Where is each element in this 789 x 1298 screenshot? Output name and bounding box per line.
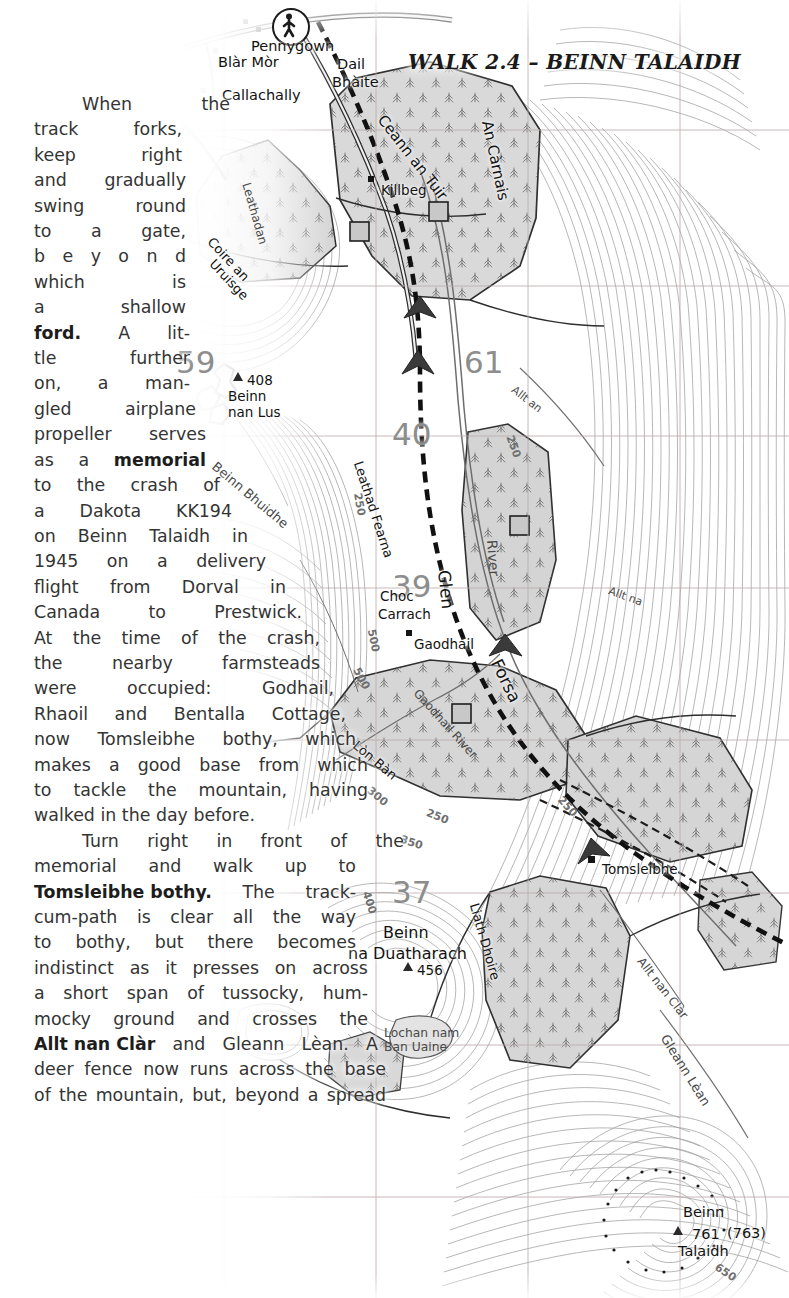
page-header-walk-title: WALK 2.4 – BEINN TALAIDH [408,50,741,74]
grid-number-40: 40 [392,416,431,452]
text-line: ashallow [34,295,186,320]
text-line: aDakotaKK194 [34,499,232,524]
spot-height-icon-761 [673,1226,683,1235]
map-label-river: River [484,539,502,576]
spot-height-icon-456 [403,962,413,971]
text-line: swinground [34,194,186,219]
text-line: walked in the day before. [34,803,368,828]
text-line: beyond [34,244,186,269]
text-line: propellerserves [34,422,206,447]
text-line: onBeinnTalaidhin [34,524,248,549]
text-line: CanadatoPrestwick. [34,600,302,625]
page-canvas: 59 61 40 39 37 Pennygown Blàr Mòr Callac… [0,0,789,1298]
map-label-glen: Glen [434,569,458,610]
text-line: mockygroundandcrossesthe [34,1007,368,1032]
text-line: Allt nan ClàrandGleannLèan.A [34,1032,378,1057]
text-line: on,aman- [34,371,190,396]
text-line: thenearbyfarmsteads [34,651,320,676]
text-line: deerfencenowrunsacrossthebase [34,1057,386,1082]
text-line: memorialandwalkupto [34,854,356,879]
text-line: ford.Alit- [34,321,190,346]
paragraph-2: Turnrightinfrontofthe memorialandwalkupt… [34,829,374,1108]
text-line: keepright [34,143,182,168]
paragraph-1: Whenthe trackforks, keepright andgradual… [34,92,374,829]
grid-number-37: 37 [392,874,431,910]
map-label-gaodhail: Gaodhail [414,636,474,652]
text-line: totacklethemountain,having [34,778,368,803]
map-label-tomsleibhe: Tomsleibhe [602,861,678,877]
text-line: RhaoilandBentallaCottage, [34,702,346,727]
walker-glyph [274,10,304,40]
text-line: Turnrightinfrontofthe [34,829,404,854]
map-label-beinn: Beinn [383,923,429,942]
header-text: WALK 2.4 – BEINN TALAIDH [408,50,741,74]
map-label-killbeg: Killbeg [381,182,427,198]
text-line: tothecrashof [34,473,220,498]
text-line: Atthetimeofthecrash, [34,626,320,651]
map-label-beinn-talaidh-line1: Beinn [683,1204,724,1220]
text-line: toagate, [34,219,186,244]
text-line: trackforks, [34,117,182,142]
grid-number-61: 61 [464,344,503,380]
map-label-lochan-nam: Lochan nam [384,1026,459,1040]
text-line: nowTomsleibhebothy,which [34,727,356,752]
text-line: asamemorial [34,448,206,473]
text-line: flightfromDorvalin [34,575,286,600]
text-line: andgradually [34,168,186,193]
text-line: gledairplane [34,397,196,422]
text-line: ofthemountain,but,beyondaspread [34,1083,386,1108]
map-label-pennygown: Pennygown [251,38,334,54]
text-line: makesagoodbasefromwhich [34,753,368,778]
text-line: tlefurther [34,346,190,371]
text-line: indistinctasitpressesonacross [34,956,368,981]
text-line: Tomsleibhe bothy.Thetrack- [34,880,356,905]
text-line: Whenthe [34,92,230,117]
map-label-ban-uaine: Ban Uaine [384,1040,447,1054]
map-label-height-761: 761 [692,1226,720,1242]
map-label-choc: Choc [380,588,414,604]
text-line: ashortspanoftussocky,hum- [34,981,368,1006]
map-label-dail: Dail [337,56,365,72]
map-label-carrach: Carrach [378,606,431,622]
map-label-blar-mor: Blàr Mòr [218,54,279,70]
map-label-beinn-talaidh-line2: Talaidh [678,1243,729,1259]
text-line: 1945onadelivery [34,549,266,574]
map-label-bhaite: Bhàite [332,74,379,90]
text-line: tobothy,buttherebecomes [34,930,356,955]
map-label-height-456: 456 [417,962,443,978]
article-body: Whenthe trackforks, keepright andgradual… [34,92,374,1108]
text-line: whichis [34,270,186,295]
text-line: wereoccupied:Godhail, [34,676,334,701]
text-line: cum-pathisclearalltheway [34,905,356,930]
map-label-height-763: (763) [727,1225,766,1241]
